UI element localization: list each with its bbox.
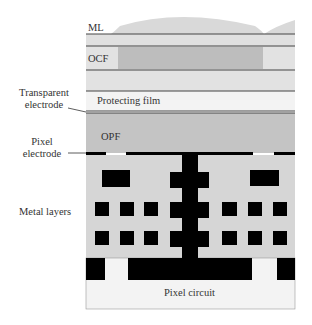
- ml-label: ML: [88, 22, 104, 33]
- cross-section-svg: [0, 0, 312, 325]
- planarization-layer: [86, 70, 295, 91]
- transparent-electrode-label: Transparent electrode: [14, 87, 74, 111]
- transparent-electrode-line1: Transparent: [14, 87, 74, 99]
- color-filter: [118, 47, 263, 69]
- sensor-cross-section-diagram: ML OCF Protecting film OPF Pixel circuit…: [0, 0, 312, 325]
- pixel-circuit-label: Pixel circuit: [164, 287, 215, 298]
- microlens-layer: [86, 17, 295, 34]
- transparent-electrode-line2: electrode: [14, 99, 74, 111]
- leader-lines: [68, 108, 86, 153]
- ml-planar: [86, 34, 295, 46]
- pixel-electrode-label: Pixel electrode: [16, 136, 68, 160]
- pixel-electrode-line2: electrode: [16, 148, 68, 160]
- opf-label: OPF: [101, 131, 120, 142]
- protecting-film-label: Protecting film: [97, 95, 160, 106]
- pixel-electrode-line1: Pixel: [16, 136, 68, 148]
- metal-layers-label: Metal layers: [19, 206, 71, 218]
- ocf-label: OCF: [88, 53, 108, 64]
